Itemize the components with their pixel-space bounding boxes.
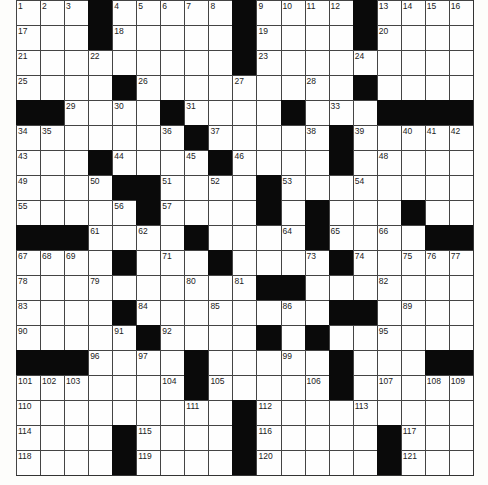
grid-cell[interactable] (64, 125, 88, 150)
grid-cell[interactable] (208, 75, 232, 100)
grid-cell[interactable]: 48 (377, 150, 401, 175)
grid-cell[interactable]: 34 (16, 125, 40, 150)
grid-cell[interactable] (184, 325, 208, 350)
grid-cell[interactable] (160, 275, 184, 300)
grid-cell[interactable] (256, 100, 280, 125)
grid-cell[interactable]: 36 (160, 125, 184, 150)
grid-cell[interactable] (160, 400, 184, 425)
grid-cell[interactable] (401, 75, 425, 100)
grid-cell[interactable] (208, 200, 232, 225)
grid-cell[interactable] (88, 400, 112, 425)
grid-cell[interactable] (449, 75, 473, 100)
grid-cell[interactable] (112, 375, 136, 400)
grid-cell[interactable] (232, 175, 256, 200)
grid-cell[interactable] (305, 150, 329, 175)
grid-cell[interactable] (256, 150, 280, 175)
grid-cell[interactable] (232, 225, 256, 250)
grid-cell[interactable]: 66 (377, 225, 401, 250)
grid-cell[interactable] (425, 175, 449, 200)
grid-cell[interactable] (281, 25, 305, 50)
grid-cell[interactable]: 96 (88, 350, 112, 375)
grid-cell[interactable] (160, 50, 184, 75)
grid-cell[interactable]: 102 (40, 375, 64, 400)
grid-cell[interactable] (449, 175, 473, 200)
grid-cell[interactable]: 77 (449, 250, 473, 275)
grid-cell[interactable]: 2 (40, 0, 64, 25)
grid-cell[interactable] (40, 275, 64, 300)
grid-cell[interactable]: 22 (88, 50, 112, 75)
grid-cell[interactable]: 56 (112, 200, 136, 225)
grid-cell[interactable] (353, 450, 377, 475)
grid-cell[interactable] (401, 225, 425, 250)
grid-cell[interactable] (401, 50, 425, 75)
grid-cell[interactable]: 67 (16, 250, 40, 275)
grid-cell[interactable] (184, 25, 208, 50)
grid-cell[interactable] (329, 400, 353, 425)
grid-cell[interactable] (208, 275, 232, 300)
grid-cell[interactable] (329, 200, 353, 225)
grid-cell[interactable] (160, 425, 184, 450)
grid-cell[interactable]: 7 (184, 0, 208, 25)
grid-cell[interactable] (256, 250, 280, 275)
grid-cell[interactable]: 51 (160, 175, 184, 200)
grid-cell[interactable] (88, 250, 112, 275)
grid-cell[interactable]: 1 (16, 0, 40, 25)
grid-cell[interactable]: 108 (425, 375, 449, 400)
grid-cell[interactable] (353, 325, 377, 350)
grid-cell[interactable]: 92 (160, 325, 184, 350)
grid-cell[interactable]: 120 (256, 450, 280, 475)
grid-cell[interactable]: 39 (353, 125, 377, 150)
grid-cell[interactable]: 104 (160, 375, 184, 400)
grid-cell[interactable] (401, 375, 425, 400)
grid-cell[interactable]: 61 (88, 225, 112, 250)
grid-cell[interactable] (329, 450, 353, 475)
grid-cell[interactable]: 52 (208, 175, 232, 200)
grid-cell[interactable] (449, 150, 473, 175)
grid-cell[interactable] (64, 300, 88, 325)
grid-cell[interactable]: 101 (16, 375, 40, 400)
grid-cell[interactable] (88, 300, 112, 325)
grid-cell[interactable] (40, 175, 64, 200)
grid-cell[interactable] (449, 200, 473, 225)
grid-cell[interactable] (184, 175, 208, 200)
grid-cell[interactable] (256, 350, 280, 375)
grid-cell[interactable] (329, 175, 353, 200)
grid-cell[interactable]: 76 (425, 250, 449, 275)
grid-cell[interactable]: 71 (160, 250, 184, 275)
grid-cell[interactable] (425, 450, 449, 475)
grid-cell[interactable] (425, 425, 449, 450)
grid-cell[interactable] (281, 325, 305, 350)
grid-cell[interactable] (136, 100, 160, 125)
grid-cell[interactable] (305, 425, 329, 450)
grid-cell[interactable] (64, 150, 88, 175)
grid-cell[interactable] (112, 50, 136, 75)
grid-cell[interactable] (425, 275, 449, 300)
grid-cell[interactable]: 74 (353, 250, 377, 275)
grid-cell[interactable] (256, 75, 280, 100)
grid-cell[interactable] (112, 225, 136, 250)
grid-cell[interactable] (329, 50, 353, 75)
grid-cell[interactable] (401, 350, 425, 375)
grid-cell[interactable] (136, 250, 160, 275)
grid-cell[interactable] (281, 200, 305, 225)
grid-cell[interactable]: 8 (208, 0, 232, 25)
grid-cell[interactable] (40, 150, 64, 175)
grid-cell[interactable]: 25 (16, 75, 40, 100)
grid-cell[interactable] (449, 300, 473, 325)
grid-cell[interactable] (353, 375, 377, 400)
grid-cell[interactable] (88, 100, 112, 125)
grid-cell[interactable]: 49 (16, 175, 40, 200)
grid-cell[interactable]: 9 (256, 0, 280, 25)
grid-cell[interactable]: 10 (281, 0, 305, 25)
grid-cell[interactable] (232, 250, 256, 275)
grid-cell[interactable] (232, 300, 256, 325)
grid-cell[interactable]: 115 (136, 425, 160, 450)
grid-cell[interactable] (425, 75, 449, 100)
grid-cell[interactable] (160, 350, 184, 375)
grid-cell[interactable] (425, 400, 449, 425)
grid-cell[interactable] (208, 325, 232, 350)
grid-cell[interactable] (184, 200, 208, 225)
grid-cell[interactable] (377, 400, 401, 425)
grid-cell[interactable] (88, 125, 112, 150)
grid-cell[interactable] (64, 175, 88, 200)
